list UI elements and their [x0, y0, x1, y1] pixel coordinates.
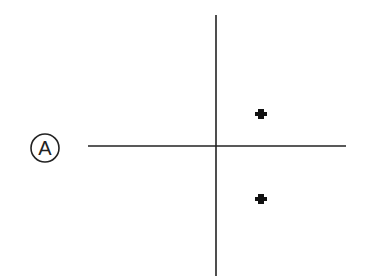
point-upper [255, 109, 267, 119]
diagram-canvas: A [0, 0, 367, 276]
label-a: A [31, 134, 59, 162]
label-letter: A [38, 137, 52, 159]
point-lower [255, 194, 267, 204]
